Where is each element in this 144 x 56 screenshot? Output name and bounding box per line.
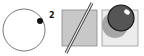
rod-crossing-square-icon bbox=[60, 0, 100, 56]
circle-label: 2 bbox=[49, 12, 55, 20]
rod-panel bbox=[60, 0, 100, 56]
circle-dot-icon bbox=[2, 6, 52, 54]
sphere-shadow-icon bbox=[100, 0, 144, 56]
circle-panel bbox=[2, 6, 52, 54]
sphere-panel bbox=[100, 0, 144, 56]
